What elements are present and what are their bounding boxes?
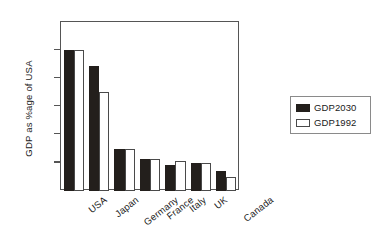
legend-entry: GDP1992 xyxy=(296,116,356,129)
legend-swatch-icon xyxy=(296,104,310,112)
x-axis-tick-label: Canada xyxy=(242,194,276,224)
bar xyxy=(99,92,109,191)
x-axis-tick-label: UK xyxy=(212,194,229,211)
bar xyxy=(125,149,135,191)
bar xyxy=(150,159,160,191)
x-axis-tick-label: USA xyxy=(86,194,109,215)
x-axis-tick-label: Japan xyxy=(113,194,141,219)
bar xyxy=(201,163,211,191)
bar xyxy=(64,50,74,191)
bar xyxy=(74,50,84,191)
bar xyxy=(89,66,99,191)
bar xyxy=(165,165,175,191)
legend-swatch-icon xyxy=(296,119,310,127)
legend-label: GDP1992 xyxy=(314,117,356,128)
chart-legend: GDP2030 GDP1992 xyxy=(290,96,371,134)
plot-right-border xyxy=(238,21,239,190)
bar xyxy=(114,149,124,191)
legend-label: GDP2030 xyxy=(314,102,356,113)
bar xyxy=(175,161,185,191)
bar xyxy=(226,177,236,191)
plot-area xyxy=(60,21,238,190)
legend-entry: GDP2030 xyxy=(296,101,356,114)
bar xyxy=(216,171,226,191)
bar xyxy=(140,159,150,191)
y-axis-title: GDP as %age of USA xyxy=(23,29,34,189)
bar-chart-figure: GDP as %age of USA 1.210.80.60.40.20 USA… xyxy=(0,0,379,247)
bar xyxy=(191,163,201,191)
